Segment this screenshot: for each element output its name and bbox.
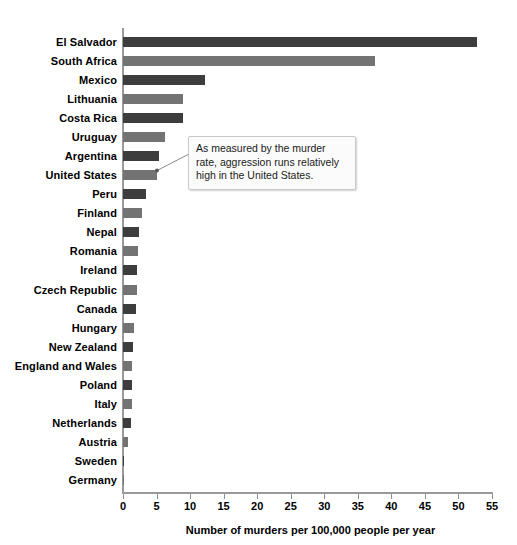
annotation-text: As measured by the murder rate, aggressi… (196, 142, 339, 181)
category-label: Poland (80, 379, 117, 391)
bar-row: Austria (123, 433, 492, 452)
bar-row: England and Wales (123, 356, 492, 375)
bar (123, 418, 131, 428)
bar (123, 189, 146, 199)
plot-area: El SalvadorSouth AfricaMexicoLithuaniaCo… (123, 32, 492, 490)
category-label: South Africa (51, 55, 117, 67)
x-tick-label: 30 (318, 500, 330, 512)
category-label: Hungary (72, 322, 117, 334)
x-tick (123, 494, 124, 499)
murder-rate-bar-chart: El SalvadorSouth AfricaMexicoLithuaniaCo… (0, 0, 517, 545)
x-axis-title: Number of murders per 100,000 people per… (0, 524, 517, 536)
bar-row: El Salvador (123, 32, 492, 51)
x-tick (492, 494, 493, 499)
x-tick (291, 494, 292, 499)
bar (123, 380, 132, 390)
x-tick-label: 20 (251, 500, 263, 512)
bar (123, 208, 142, 218)
x-tick-label: 5 (153, 500, 159, 512)
bar-rows: El SalvadorSouth AfricaMexicoLithuaniaCo… (123, 32, 492, 490)
bar (123, 285, 137, 295)
category-label: New Zealand (49, 341, 117, 353)
bar-row: Poland (123, 375, 492, 394)
bar-row: Costa Rica (123, 108, 492, 127)
x-tick (425, 494, 426, 499)
category-label: Netherlands (52, 417, 117, 429)
category-label: Peru (92, 188, 117, 200)
x-tick-label: 45 (419, 500, 431, 512)
bar-row: Mexico (123, 70, 492, 89)
bar (123, 456, 124, 466)
bar-row: Finland (123, 204, 492, 223)
bar (123, 265, 137, 275)
bar (123, 246, 138, 256)
bar (123, 304, 136, 314)
category-label: El Salvador (56, 36, 117, 48)
bar-row: Italy (123, 394, 492, 413)
bar-row: Nepal (123, 223, 492, 242)
category-label: Austria (78, 436, 117, 448)
bar-row: Netherlands (123, 414, 492, 433)
category-label: Germany (69, 474, 117, 486)
category-label: Romania (70, 245, 117, 257)
x-axis-title-text: Number of murders per 100,000 people per… (186, 524, 435, 536)
x-tick (257, 494, 258, 499)
x-tick (391, 494, 392, 499)
x-tick (190, 494, 191, 499)
category-label: Canada (77, 303, 117, 315)
bar (123, 475, 124, 485)
category-label: United States (45, 169, 117, 181)
category-label: Lithuania (67, 93, 117, 105)
bar (123, 227, 139, 237)
category-label: Finland (77, 207, 117, 219)
x-tick (324, 494, 325, 499)
category-label: Costa Rica (59, 112, 117, 124)
bar-row: Romania (123, 242, 492, 261)
x-tick-label: 0 (120, 500, 126, 512)
category-label: Czech Republic (34, 284, 117, 296)
x-axis-ticks: 0510152025303540455055 (123, 494, 492, 524)
x-tick (458, 494, 459, 499)
bar-row: Lithuania (123, 89, 492, 108)
category-label: Uruguay (72, 131, 117, 143)
category-label: Italy (94, 398, 117, 410)
x-tick (224, 494, 225, 499)
x-tick-label: 10 (184, 500, 196, 512)
category-label: Ireland (80, 264, 117, 276)
x-tick-label: 50 (452, 500, 464, 512)
bar (123, 56, 375, 66)
x-tick (358, 494, 359, 499)
category-label: England and Wales (15, 360, 117, 372)
bar (123, 113, 183, 123)
x-tick-label: 55 (486, 500, 498, 512)
bar-row: Sweden (123, 452, 492, 471)
callout-leader-line (150, 152, 192, 174)
bar (123, 323, 134, 333)
bar (123, 437, 128, 447)
bar (123, 342, 133, 352)
x-tick-label: 25 (285, 500, 297, 512)
bar (123, 361, 132, 371)
bar-row: Hungary (123, 318, 492, 337)
x-tick-label: 40 (385, 500, 397, 512)
bar-row: Ireland (123, 261, 492, 280)
category-label: Sweden (75, 455, 117, 467)
x-tick (157, 494, 158, 499)
category-label: Mexico (79, 74, 117, 86)
bar-row: Czech Republic (123, 280, 492, 299)
x-tick-label: 15 (218, 500, 230, 512)
bar (123, 399, 132, 409)
bar (123, 75, 205, 85)
bar-row: Canada (123, 299, 492, 318)
bar-row: Germany (123, 471, 492, 490)
bar (123, 94, 183, 104)
x-tick-label: 35 (352, 500, 364, 512)
annotation-callout: As measured by the murder rate, aggressi… (188, 136, 356, 190)
bar-row: New Zealand (123, 337, 492, 356)
bar (123, 37, 477, 47)
category-label: Argentina (65, 150, 117, 162)
bar-row: South Africa (123, 51, 492, 70)
category-label: Nepal (87, 226, 117, 238)
bar (123, 132, 165, 142)
